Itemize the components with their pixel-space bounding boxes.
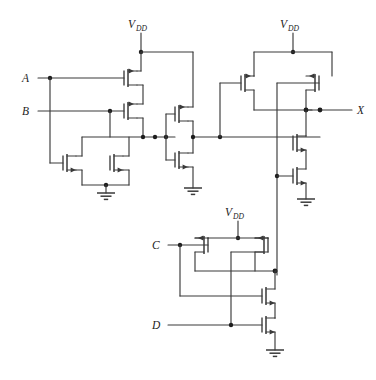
output-x-label: X xyxy=(356,104,365,116)
vdd-left-net xyxy=(139,33,193,71)
junction-dot xyxy=(153,135,157,139)
nmos-a xyxy=(63,154,76,172)
gnd-left xyxy=(97,193,115,199)
nmos-inv xyxy=(175,151,188,169)
circuit-diagram: V DD V DD V DD A B C D X xyxy=(0,0,376,380)
junction-dot xyxy=(229,323,233,327)
nmos-x2 xyxy=(293,167,306,185)
nmos-c xyxy=(262,287,275,305)
pmos-a xyxy=(124,69,137,87)
vdd-left-label-sub: DD xyxy=(135,24,147,33)
input-d-label: D xyxy=(151,319,161,331)
gnd-bottom xyxy=(266,350,284,356)
input-c-label: C xyxy=(152,239,160,251)
vdd-bottom-label-sub: DD xyxy=(232,212,244,221)
junction-dot xyxy=(318,108,323,113)
pmos-b xyxy=(124,102,137,120)
junction-dot xyxy=(141,135,145,139)
gnd-right xyxy=(297,199,315,205)
input-a-label: A xyxy=(21,72,30,84)
junction-dot xyxy=(191,135,195,139)
pmos-x1 xyxy=(241,74,254,92)
input-b-label: B xyxy=(22,105,29,117)
left-nand-block xyxy=(38,33,193,199)
bottom-nand-block xyxy=(168,221,284,356)
nmos-d xyxy=(262,316,275,334)
vdd-right-label-sub: DD xyxy=(287,24,299,33)
pmos-inv xyxy=(175,105,188,123)
gnd-mid xyxy=(184,188,202,194)
nmos-b xyxy=(110,154,123,172)
schematic-canvas: V DD V DD V DD A B C D X xyxy=(0,0,376,380)
right-output-block xyxy=(241,33,352,275)
